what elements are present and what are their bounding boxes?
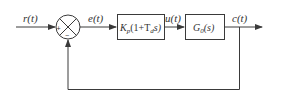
- minus-sign: −: [65, 32, 69, 39]
- plus-sign: +: [57, 25, 61, 32]
- output-label: c(t): [232, 12, 248, 25]
- block-diagram: r(t) + − e(t) Kp(1+Tds) u(t) G0(s) c(t): [0, 0, 282, 98]
- input-label: r(t): [23, 12, 38, 25]
- control-label: u(t): [165, 12, 181, 25]
- error-label: e(t): [88, 12, 104, 25]
